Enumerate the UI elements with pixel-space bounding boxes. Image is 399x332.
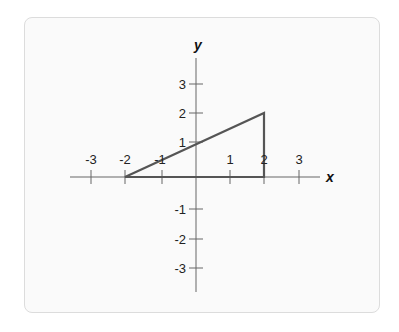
x-tick-label: -2 bbox=[119, 152, 131, 167]
triangle-shape bbox=[125, 113, 264, 177]
y-tick-label: -3 bbox=[174, 261, 186, 276]
y-tick-label: 1 bbox=[179, 135, 186, 150]
x-tick-label: -1 bbox=[154, 152, 166, 167]
coordinate-plane: -3 -2 -1 1 2 3 3 2 1 -1 -2 -3 x y bbox=[0, 0, 399, 332]
x-tick-label: 3 bbox=[295, 152, 302, 167]
y-tick-label: 3 bbox=[179, 77, 186, 92]
y-tick-label: 2 bbox=[179, 106, 186, 121]
x-tick-label: 1 bbox=[226, 152, 233, 167]
y-tick-label: -2 bbox=[174, 232, 186, 247]
x-tick-label: -3 bbox=[85, 152, 97, 167]
x-axis-label: x bbox=[325, 169, 335, 185]
x-tick-label: 2 bbox=[260, 152, 267, 167]
y-axis-label: y bbox=[193, 37, 203, 53]
y-tick-label: -1 bbox=[174, 202, 186, 217]
